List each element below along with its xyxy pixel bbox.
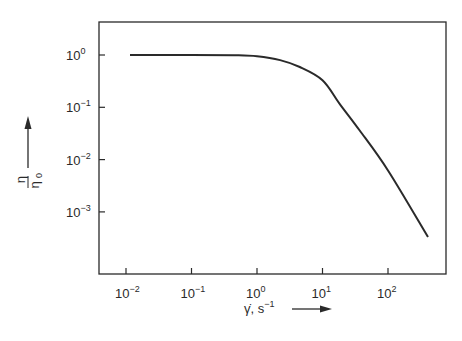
y-tick-label: 10−3 [66,203,91,220]
chart: 10−210−1100101102 10010−110−210−3 γ̇, s−… [0,0,462,341]
x-tick-label: 100 [246,284,265,301]
x-axis-arrow-icon [292,306,332,313]
y-tick-label: 10−2 [66,151,91,168]
y-axis-arrow-icon [25,116,32,168]
x-axis-label: γ̇, s−1 [244,299,332,316]
y-axis-label: η η 0 [13,116,44,189]
y-tick-label: 10−1 [66,98,91,115]
y-tick-label: 100 [66,46,85,63]
y-axis-denominator: η [27,181,42,188]
series-line-viscosity [130,55,428,237]
y-axis-denominator-sub: 0 [34,173,44,178]
x-tick-label: 102 [377,284,396,301]
y-axis-numerator: η [13,176,28,183]
x-tick-label: 10−1 [181,284,206,301]
x-tick-label: 101 [312,284,331,301]
x-axis-unit: , s [251,301,265,316]
plot-frame [99,22,446,274]
x-tick-label: 10−2 [115,284,140,301]
x-axis-unit-exponent: −1 [264,299,274,309]
svg-text:γ̇, s−1: γ̇, s−1 [244,299,275,316]
x-axis-ticks: 10−210−1100101102 [115,268,396,301]
